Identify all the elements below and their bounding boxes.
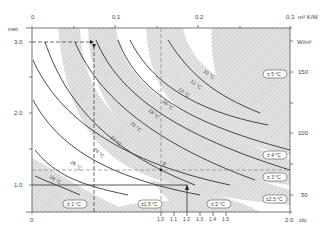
left-tick-2: 2.0 bbox=[14, 110, 23, 116]
bottom-tick-1.4: 1.4 bbox=[209, 216, 216, 222]
point-P bbox=[160, 169, 163, 172]
top-tick-2: 0.2 bbox=[195, 14, 204, 20]
badge-3c: ± 3 °C bbox=[263, 173, 287, 181]
label-26c: 26 °C bbox=[69, 159, 83, 171]
bottom-tick-1.3: 1.3 bbox=[196, 216, 203, 222]
svg-text:±2.5 °C: ±2.5 °C bbox=[266, 196, 283, 202]
svg-text:± 4 °C: ± 4 °C bbox=[267, 152, 281, 158]
bottom-unit: clo bbox=[299, 217, 307, 223]
top-tick-0: 0 bbox=[31, 14, 35, 20]
bottom-tick-1.0: 1.0 bbox=[157, 216, 164, 222]
svg-text:±1.5 °C: ±1.5 °C bbox=[141, 201, 158, 207]
right-unit: W/m² bbox=[297, 39, 311, 45]
right-tick-150: 150 bbox=[298, 69, 309, 75]
svg-text:± 2 °C: ± 2 °C bbox=[211, 201, 225, 207]
badge-1c: ± 1 °C bbox=[63, 200, 87, 208]
badge-2c: ± 2 °C bbox=[207, 200, 231, 208]
top-tick-1: 0.1 bbox=[112, 14, 121, 20]
svg-text:± 5 °C: ± 5 °C bbox=[267, 71, 281, 77]
bottom-tick-1.2: 1.2 bbox=[183, 216, 190, 222]
left-tick-1: 1.0 bbox=[14, 182, 23, 188]
bottom-tick-2.0: 2.0 bbox=[285, 217, 294, 223]
thermal-comfort-chart: 0 0.1 0.2 0.3 m² K/W met 3.0 2.0 1.0 W/m… bbox=[0, 0, 328, 240]
badge-1-5c: ±1.5 °C bbox=[138, 200, 162, 208]
left-tick-3: 3.0 bbox=[14, 39, 23, 45]
bottom-tick-1.5: 1.5 bbox=[222, 216, 229, 222]
bottom-tick-0: 0 bbox=[30, 217, 34, 223]
bottom-tick-1.1: 1.1 bbox=[170, 216, 177, 222]
badge-5c: ± 5 °C bbox=[263, 70, 287, 78]
badge-2-5c: ±2.5 °C bbox=[263, 195, 287, 203]
top-unit: m² K/W bbox=[298, 14, 318, 20]
badge-4c: ± 4 °C bbox=[263, 151, 287, 159]
svg-text:± 1 °C: ± 1 °C bbox=[67, 201, 81, 207]
top-tick-3: 0.3 bbox=[286, 14, 295, 20]
svg-text:± 3 °C: ± 3 °C bbox=[267, 174, 281, 180]
right-tick-50: 50 bbox=[301, 192, 308, 198]
right-tick-100: 100 bbox=[298, 130, 309, 136]
left-unit: met bbox=[8, 26, 18, 32]
